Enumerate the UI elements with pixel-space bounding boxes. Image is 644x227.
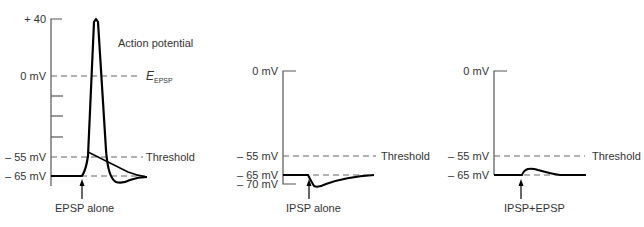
y-label-minus-55: – 55 mV — [0, 152, 46, 163]
threshold-label: Threshold — [592, 151, 641, 162]
y-axis — [51, 19, 62, 186]
y-label-minus-70: – 70 mV — [220, 179, 278, 190]
y-label-minus-65: – 65 mV — [0, 171, 46, 182]
y-axis — [283, 71, 296, 184]
panel-ipsp-plus-epsp — [494, 71, 586, 199]
action-potential-label: Action potential — [118, 38, 193, 49]
y-label-0mv: 0 mV — [220, 66, 278, 77]
y-label-plus-40: + 40 — [0, 14, 46, 25]
caption-epsp-alone: EPSP alone — [55, 203, 114, 214]
y-axis — [494, 71, 507, 175]
stimulus-arrow-head — [80, 179, 85, 186]
ipsp-trace — [283, 175, 374, 187]
e-epsp-label: EEPSP — [146, 70, 173, 82]
combined-trace — [494, 169, 586, 175]
caption-ipsp-alone: IPSP alone — [286, 203, 341, 214]
caption-ipsp-plus-epsp: IPSP+EPSP — [504, 203, 565, 214]
y-label-0mv: 0 mV — [0, 71, 46, 82]
epsp-trace — [88, 152, 147, 177]
stimulus-arrow-head — [519, 179, 524, 186]
y-label-minus-55: – 55 mV — [430, 151, 489, 162]
y-label-minus-55: – 55 mV — [220, 151, 278, 162]
threshold-label: Threshold — [146, 152, 195, 163]
y-label-0mv: 0 mV — [430, 66, 489, 77]
threshold-label: Threshold — [381, 151, 430, 162]
y-label-minus-65: – 65 mV — [430, 170, 489, 181]
diagram-canvas — [0, 0, 644, 227]
panel-ipsp-alone — [283, 71, 376, 199]
